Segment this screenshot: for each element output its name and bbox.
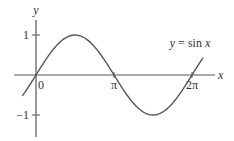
x-tick-label: 2π <box>186 78 198 92</box>
y-tick-label: 1 <box>23 28 29 42</box>
annotation-x: x <box>204 36 211 50</box>
x-tick-label: 0 <box>38 78 44 92</box>
x-axis-label: x <box>217 68 224 82</box>
curve-annotation: y = sin x <box>169 36 211 50</box>
y-tick-label: −1 <box>16 108 29 122</box>
x-tick-label: π <box>111 78 117 92</box>
chart: 1−1 0π2π y x y = sin x <box>0 0 234 141</box>
annotation-y: y <box>169 36 176 50</box>
annotation-eq: = sin <box>178 36 205 50</box>
y-axis-label: y <box>32 3 39 17</box>
